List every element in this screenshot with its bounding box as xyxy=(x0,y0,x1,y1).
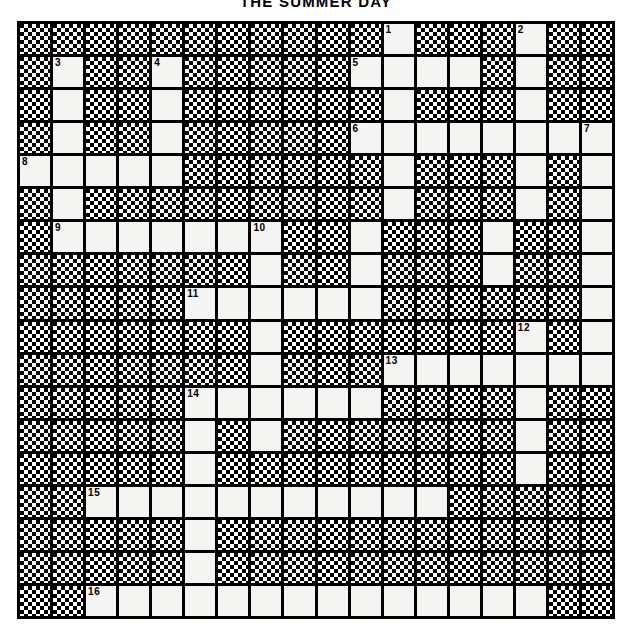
crossword-cell-open[interactable] xyxy=(85,155,117,187)
crossword-cell-open[interactable] xyxy=(184,420,216,452)
crossword-cell-open[interactable]: 3 xyxy=(52,56,84,88)
crossword-cell-open[interactable]: 5 xyxy=(350,56,382,88)
crossword-cell-open[interactable] xyxy=(250,585,282,617)
crossword-cell-open[interactable] xyxy=(118,585,150,617)
crossword-cell-open[interactable] xyxy=(283,486,315,518)
crossword-cell-open[interactable]: 10 xyxy=(250,221,282,253)
crossword-cell-open[interactable] xyxy=(250,420,282,452)
crossword-cell-open[interactable] xyxy=(449,354,481,386)
crossword-cell-open[interactable] xyxy=(151,155,183,187)
crossword-cell-open[interactable] xyxy=(548,122,580,154)
crossword-cell-open[interactable] xyxy=(383,122,415,154)
crossword-cell-open[interactable] xyxy=(250,354,282,386)
crossword-cell-open[interactable] xyxy=(449,122,481,154)
crossword-cell-open[interactable] xyxy=(581,254,613,286)
crossword-cell-open[interactable] xyxy=(515,89,547,121)
crossword-cell-open[interactable] xyxy=(515,420,547,452)
crossword-cell-open[interactable] xyxy=(416,354,448,386)
crossword-cell-open[interactable] xyxy=(581,155,613,187)
crossword-cell-open[interactable] xyxy=(515,155,547,187)
crossword-cell-open[interactable] xyxy=(581,287,613,319)
crossword-cell-open[interactable] xyxy=(184,585,216,617)
crossword-cell-open[interactable] xyxy=(350,287,382,319)
crossword-cell-open[interactable] xyxy=(581,188,613,220)
crossword-cell-open[interactable] xyxy=(217,221,249,253)
crossword-cell-open[interactable] xyxy=(416,122,448,154)
crossword-cell-open[interactable] xyxy=(350,254,382,286)
crossword-cell-open[interactable] xyxy=(317,287,349,319)
crossword-cell-open[interactable] xyxy=(217,585,249,617)
crossword-cell-open[interactable] xyxy=(515,354,547,386)
crossword-cell-open[interactable] xyxy=(515,188,547,220)
crossword-cell-open[interactable] xyxy=(217,387,249,419)
crossword-cell-open[interactable] xyxy=(250,387,282,419)
crossword-cell-open[interactable] xyxy=(184,221,216,253)
crossword-cell-open[interactable] xyxy=(449,56,481,88)
crossword-cell-open[interactable] xyxy=(283,585,315,617)
crossword-cell-open[interactable] xyxy=(482,221,514,253)
crossword-cell-open[interactable] xyxy=(151,122,183,154)
crossword-cell-open[interactable] xyxy=(250,486,282,518)
crossword-cell-open[interactable] xyxy=(449,585,481,617)
crossword-cell-open[interactable] xyxy=(151,221,183,253)
crossword-cell-open[interactable] xyxy=(118,221,150,253)
crossword-cell-open[interactable] xyxy=(383,89,415,121)
crossword-cell-open[interactable] xyxy=(217,486,249,518)
crossword-cell-open[interactable] xyxy=(482,354,514,386)
crossword-cell-open[interactable] xyxy=(581,321,613,353)
crossword-cell-open[interactable] xyxy=(52,89,84,121)
crossword-cell-open[interactable] xyxy=(515,387,547,419)
crossword-cell-open[interactable] xyxy=(184,552,216,584)
crossword-cell-open[interactable] xyxy=(383,56,415,88)
crossword-cell-open[interactable]: 1 xyxy=(383,23,415,55)
crossword-cell-open[interactable] xyxy=(118,486,150,518)
crossword-cell-open[interactable]: 14 xyxy=(184,387,216,419)
crossword-cell-open[interactable] xyxy=(383,486,415,518)
crossword-cell-open[interactable]: 12 xyxy=(515,321,547,353)
crossword-cell-open[interactable] xyxy=(52,188,84,220)
crossword-cell-open[interactable] xyxy=(416,486,448,518)
crossword-cell-open[interactable] xyxy=(184,519,216,551)
crossword-cell-open[interactable] xyxy=(283,287,315,319)
crossword-cell-open[interactable] xyxy=(581,221,613,253)
crossword-cell-open[interactable] xyxy=(515,122,547,154)
crossword-cell-open[interactable] xyxy=(548,354,580,386)
crossword-cell-open[interactable] xyxy=(317,585,349,617)
crossword-cell-open[interactable]: 6 xyxy=(350,122,382,154)
crossword-cell-open[interactable] xyxy=(383,155,415,187)
crossword-cell-open[interactable]: 15 xyxy=(85,486,117,518)
crossword-cell-open[interactable] xyxy=(350,387,382,419)
crossword-cell-open[interactable] xyxy=(515,56,547,88)
crossword-cell-open[interactable] xyxy=(184,486,216,518)
crossword-cell-open[interactable] xyxy=(250,254,282,286)
crossword-cell-open[interactable] xyxy=(52,155,84,187)
crossword-cell-open[interactable]: 9 xyxy=(52,221,84,253)
crossword-cell-open[interactable] xyxy=(581,354,613,386)
crossword-cell-open[interactable] xyxy=(151,585,183,617)
crossword-cell-open[interactable] xyxy=(383,188,415,220)
crossword-cell-open[interactable] xyxy=(250,287,282,319)
crossword-cell-open[interactable] xyxy=(383,585,415,617)
crossword-cell-open[interactable] xyxy=(283,387,315,419)
crossword-cell-open[interactable]: 16 xyxy=(85,585,117,617)
crossword-cell-open[interactable] xyxy=(118,155,150,187)
crossword-cell-open[interactable] xyxy=(250,321,282,353)
crossword-cell-open[interactable]: 2 xyxy=(515,23,547,55)
crossword-cell-open[interactable] xyxy=(515,585,547,617)
crossword-cell-open[interactable] xyxy=(416,56,448,88)
crossword-cell-open[interactable] xyxy=(317,387,349,419)
crossword-cell-open[interactable] xyxy=(482,122,514,154)
crossword-cell-open[interactable]: 8 xyxy=(19,155,51,187)
crossword-cell-open[interactable] xyxy=(217,287,249,319)
crossword-cell-open[interactable] xyxy=(350,221,382,253)
crossword-cell-open[interactable]: 11 xyxy=(184,287,216,319)
crossword-cell-open[interactable] xyxy=(52,122,84,154)
crossword-cell-open[interactable]: 13 xyxy=(383,354,415,386)
crossword-cell-open[interactable] xyxy=(482,585,514,617)
crossword-cell-open[interactable] xyxy=(151,486,183,518)
crossword-cell-open[interactable] xyxy=(317,486,349,518)
crossword-cell-open[interactable] xyxy=(85,221,117,253)
crossword-cell-open[interactable]: 4 xyxy=(151,56,183,88)
crossword-cell-open[interactable] xyxy=(151,89,183,121)
crossword-cell-open[interactable] xyxy=(350,486,382,518)
